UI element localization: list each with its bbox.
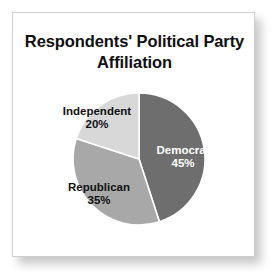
pie-chart-svg xyxy=(13,13,256,258)
pie-label-independent: Independent 20% xyxy=(45,105,149,131)
chart-card: Respondents' Political Party Affiliation… xyxy=(12,12,255,257)
pie-chart: Democrat 45% Republican 35% Independent … xyxy=(13,13,256,258)
pie-label-independent-value: 20% xyxy=(45,118,149,131)
pie-label-democrat: Democrat 45% xyxy=(141,144,225,170)
pie-label-democrat-name: Democrat xyxy=(141,144,225,157)
pie-label-republican-name: Republican xyxy=(53,181,145,194)
pie-label-republican: Republican 35% xyxy=(53,181,145,207)
pie-label-democrat-value: 45% xyxy=(141,157,225,170)
pie-label-republican-value: 35% xyxy=(53,194,145,207)
figure-root: Respondents' Political Party Affiliation… xyxy=(0,0,275,280)
pie-label-independent-name: Independent xyxy=(45,105,149,118)
